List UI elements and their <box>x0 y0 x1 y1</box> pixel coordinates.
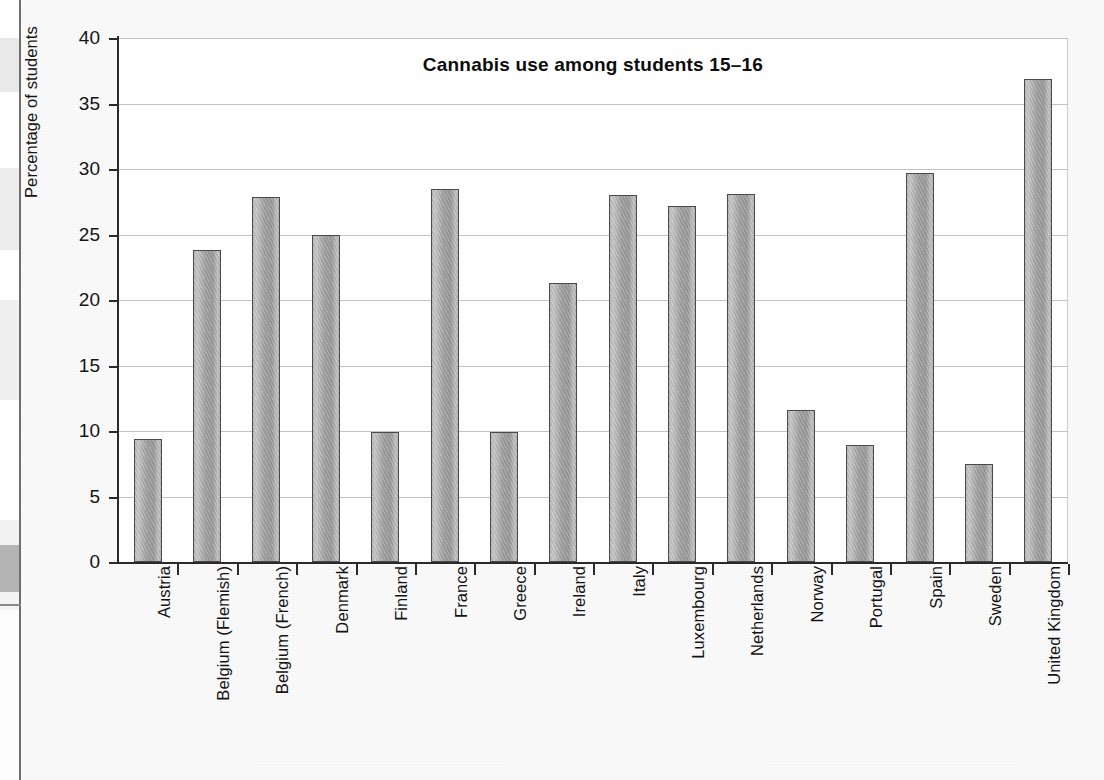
x-axis-tick-label: Belgium (French) <box>273 566 292 694</box>
bar[interactable] <box>312 235 340 563</box>
x-axis-tick-label: Spain <box>927 566 946 609</box>
y-axis-tick-label: 25 <box>54 224 100 246</box>
bar-slot <box>534 38 593 562</box>
x-axis-tick-label: Sweden <box>986 566 1005 626</box>
x-axis-tick-label: France <box>452 566 471 618</box>
bar[interactable] <box>371 432 399 562</box>
bar[interactable] <box>965 464 993 562</box>
x-axis-tick-label: Ireland <box>570 566 589 617</box>
y-axis-tick-label: 0 <box>54 551 100 573</box>
bar-slot <box>831 38 890 562</box>
bar[interactable] <box>906 173 934 562</box>
bar[interactable] <box>134 439 162 562</box>
bar-slot <box>296 38 355 562</box>
y-axis-tick-mark <box>109 169 118 171</box>
x-axis-tick-label: Greece <box>511 566 530 621</box>
bar-slot <box>356 38 415 562</box>
bar-slot <box>949 38 1008 562</box>
bar[interactable] <box>431 189 459 562</box>
y-axis-tick-mark <box>109 104 118 106</box>
bar[interactable] <box>727 194 755 562</box>
bar-slot <box>118 38 177 562</box>
x-axis-tick-label: Denmark <box>333 566 352 634</box>
y-axis-tick-label: 30 <box>54 158 100 180</box>
x-axis-tick-mark <box>1068 564 1070 575</box>
plot-area: Cannabis use among students 15–16 <box>118 38 1068 562</box>
y-axis-tick-mark <box>109 497 118 499</box>
bar[interactable] <box>609 195 637 562</box>
bar[interactable] <box>846 445 874 562</box>
bar-slot <box>474 38 533 562</box>
y-axis-tick-label: 40 <box>54 27 100 49</box>
page-border-horizontal-rule <box>0 604 22 606</box>
x-axis-tick-label: Norway <box>808 566 827 623</box>
bar[interactable] <box>490 432 518 562</box>
y-axis-tick-mark <box>109 562 118 564</box>
y-axis-tick-mark <box>109 366 118 368</box>
bar-slot <box>771 38 830 562</box>
y-axis-tick-mark <box>109 235 118 237</box>
x-axis-tick-label: Portugal <box>867 566 886 628</box>
bar-slot <box>593 38 652 562</box>
chart-page: Percentage of students 0510152025303540 … <box>0 0 1104 780</box>
x-axis-tick-label: Austria <box>155 566 174 618</box>
scanned-page-edge <box>0 0 20 780</box>
x-axis-tick-label: Netherlands <box>748 566 767 656</box>
y-axis-tick-label: 10 <box>54 420 100 442</box>
bar[interactable] <box>549 283 577 562</box>
x-axis-tick-label: Belgium (Flemish) <box>214 566 233 701</box>
x-axis-tick-label: United Kingdom <box>1045 566 1064 685</box>
y-axis-tick-label: 35 <box>54 93 100 115</box>
x-axis-tick-label: Finland <box>392 566 411 621</box>
bar-slot <box>652 38 711 562</box>
y-axis-tick-mark <box>109 38 118 40</box>
y-axis-tick-label: 20 <box>54 289 100 311</box>
y-axis-tick-mark <box>109 300 118 302</box>
bar[interactable] <box>252 197 280 562</box>
y-axis-tick-mark <box>109 431 118 433</box>
bar[interactable] <box>668 206 696 562</box>
x-axis-tick-label: Luxembourg <box>689 566 708 659</box>
bar-slot <box>237 38 296 562</box>
y-axis-tick-label: 5 <box>54 486 100 508</box>
bar[interactable] <box>787 410 815 562</box>
x-axis-tick-label: Italy <box>630 566 649 597</box>
bar-slot <box>177 38 236 562</box>
y-axis-tick-labels: 0510152025303540 <box>38 0 100 780</box>
bar-series <box>118 38 1068 562</box>
bar[interactable] <box>193 250 221 562</box>
x-axis-tick-labels: AustriaBelgium (Flemish)Belgium (French)… <box>118 566 1068 780</box>
bar-slot <box>1009 38 1068 562</box>
bar-slot <box>712 38 771 562</box>
bar[interactable] <box>1024 79 1052 562</box>
bar-slot <box>415 38 474 562</box>
y-axis-tick-label: 15 <box>54 355 100 377</box>
bar-slot <box>890 38 949 562</box>
